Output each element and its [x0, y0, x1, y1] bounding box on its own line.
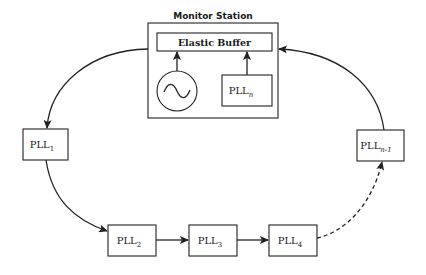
- elastic-buffer-label: Elastic Buffer: [178, 37, 252, 48]
- node-plln-minus-1: PLLn-1: [357, 130, 404, 161]
- edge-plln-1-to-monitor: [279, 49, 384, 130]
- edge-pll1-to-pll2: [46, 160, 107, 231]
- pll-ring-diagram: Monitor Station Elastic Buffer PLLn PLL1…: [0, 0, 426, 275]
- node-pll4: PLL4: [269, 225, 317, 256]
- node-pll3: PLL3: [189, 225, 237, 256]
- oscillator-icon: [157, 71, 197, 111]
- node-pll1: PLL1: [23, 129, 68, 160]
- edge-monitor-to-pll1: [47, 49, 148, 128]
- edge-pll4-to-plln-1-dashed: [317, 162, 382, 238]
- monitor-station: Monitor Station Elastic Buffer PLLn: [148, 11, 278, 118]
- node-pll2: PLL2: [108, 225, 156, 256]
- monitor-station-title: Monitor Station: [173, 11, 253, 21]
